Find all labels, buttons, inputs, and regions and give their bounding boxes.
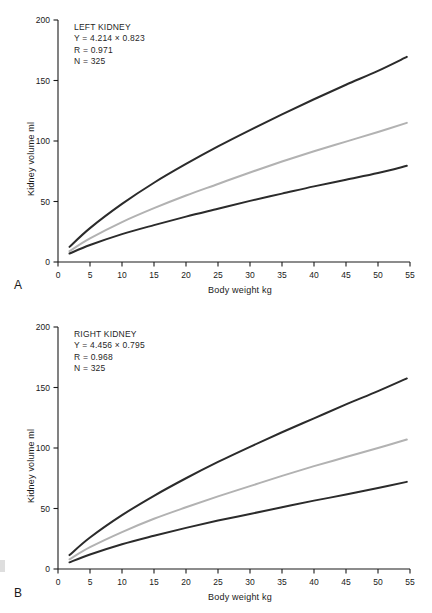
x-tick-label: 35 <box>277 270 286 280</box>
chart-a-annotation-equation: Y = 4.214 × 0.823 <box>74 33 145 44</box>
x-tick-label: 10 <box>117 270 126 280</box>
y-tick-label: 100 <box>0 443 50 453</box>
chart-b-plot <box>0 307 432 613</box>
x-tick-label: 5 <box>88 577 93 587</box>
x-tick-label: 35 <box>277 577 286 587</box>
chart-b-annotation-equation: Y = 4.456 × 0.795 <box>74 340 145 351</box>
x-tick-label: 15 <box>149 270 158 280</box>
chart-panel-b: RIGHT KIDNEY Y = 4.456 × 0.795 R = 0.968… <box>0 307 432 613</box>
x-tick-label: 20 <box>181 270 190 280</box>
x-tick-label: 40 <box>309 270 318 280</box>
y-tick-label: 50 <box>0 504 50 514</box>
y-tick-label: 50 <box>0 197 50 207</box>
chart-b-annotation-n: N = 325 <box>74 363 145 374</box>
x-tick-label: 50 <box>373 577 382 587</box>
curve-upper-percentile <box>70 378 407 555</box>
figure-kidney-volume-vs-body-weight: LEFT KIDNEY Y = 4.214 × 0.823 R = 0.971 … <box>0 0 432 613</box>
x-tick-label: 30 <box>245 270 254 280</box>
x-tick-label: 5 <box>88 270 93 280</box>
x-tick-label: 55 <box>405 577 414 587</box>
x-tick-label: 0 <box>56 270 61 280</box>
chart-b-annotation: RIGHT KIDNEY Y = 4.456 × 0.795 R = 0.968… <box>74 329 145 375</box>
y-tick-label: 150 <box>0 383 50 393</box>
x-tick-label: 20 <box>181 577 190 587</box>
x-tick-label: 55 <box>405 270 414 280</box>
y-tick-label: 200 <box>0 15 50 25</box>
x-tick-label: 50 <box>373 270 382 280</box>
curve-lower-percentile <box>70 166 407 254</box>
x-tick-label: 30 <box>245 577 254 587</box>
x-tick-label: 45 <box>341 577 350 587</box>
x-tick-label: 25 <box>213 270 222 280</box>
x-tick-label: 25 <box>213 577 222 587</box>
curve-lower-percentile <box>70 482 407 562</box>
chart-b-annotation-r: R = 0.968 <box>74 352 145 363</box>
curve-upper-percentile <box>70 57 407 247</box>
x-tick-label: 40 <box>309 577 318 587</box>
y-tick-label: 0 <box>0 564 50 574</box>
curve-mean <box>70 123 407 251</box>
chart-a-y-axis-title: Kidney volume ml <box>26 122 36 196</box>
x-tick-label: 10 <box>117 577 126 587</box>
chart-panel-a: LEFT KIDNEY Y = 4.214 × 0.823 R = 0.971 … <box>0 0 432 306</box>
chart-b-annotation-title: RIGHT KIDNEY <box>74 329 145 340</box>
x-tick-label: 15 <box>149 577 158 587</box>
chart-a-x-axis-title: Body weight kg <box>24 285 432 295</box>
y-tick-label: 100 <box>0 136 50 146</box>
panel-letter-a: A <box>14 278 22 292</box>
chart-a-annotation: LEFT KIDNEY Y = 4.214 × 0.823 R = 0.971 … <box>74 22 145 68</box>
scan-edge-mark <box>0 560 5 572</box>
chart-b-y-axis-title: Kidney volume ml <box>26 429 36 503</box>
panel-letter-b: B <box>14 586 22 600</box>
chart-a-annotation-title: LEFT KIDNEY <box>74 22 145 33</box>
chart-a-annotation-n: N = 325 <box>74 56 145 67</box>
curve-mean <box>70 440 407 560</box>
x-tick-label: 0 <box>56 577 61 587</box>
x-tick-label: 45 <box>341 270 350 280</box>
chart-a-annotation-r: R = 0.971 <box>74 45 145 56</box>
y-tick-label: 200 <box>0 322 50 332</box>
chart-a-plot <box>0 0 432 306</box>
chart-b-x-axis-title: Body weight kg <box>24 592 432 602</box>
y-tick-label: 150 <box>0 76 50 86</box>
y-tick-label: 0 <box>0 257 50 267</box>
